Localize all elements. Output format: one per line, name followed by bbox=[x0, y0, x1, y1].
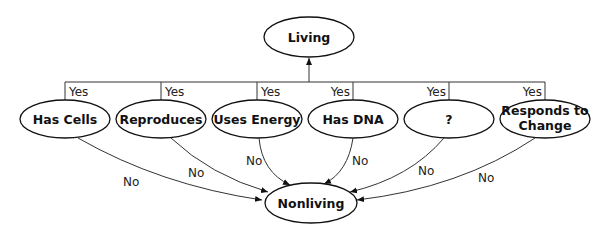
has-dna-label: Has DNA bbox=[322, 112, 384, 127]
no-label-2: No bbox=[188, 166, 204, 180]
criterion-node-has-dna: Has DNA bbox=[308, 100, 398, 138]
criterion-node-has-cells: Has Cells bbox=[20, 100, 110, 138]
yes-label-6: Yes bbox=[522, 85, 542, 99]
criterion-node-uses-energy: Uses Energy bbox=[212, 100, 302, 138]
nonliving-node: Nonliving bbox=[265, 183, 357, 223]
yes-label-5: Yes bbox=[426, 85, 446, 99]
no-label-6: No bbox=[478, 171, 494, 185]
yes-label-1: Yes bbox=[68, 85, 88, 99]
no-label-1: No bbox=[123, 175, 139, 189]
no-arrow-4 bbox=[324, 138, 353, 184]
no-label-5: No bbox=[418, 164, 434, 178]
criterion-node-responds-to-change: Responds to Change bbox=[500, 100, 590, 138]
living-node: Living bbox=[264, 17, 354, 57]
reproduces-label: Reproduces bbox=[120, 112, 203, 127]
no-label-3: No bbox=[246, 154, 262, 168]
responds-to-change-label-line2: Change bbox=[519, 118, 572, 133]
living-label: Living bbox=[288, 30, 331, 45]
no-arrow-1 bbox=[78, 138, 262, 200]
nonliving-label: Nonliving bbox=[278, 196, 345, 211]
no-arrow-3 bbox=[259, 138, 290, 185]
responds-to-change-label-line1: Responds to bbox=[501, 103, 589, 118]
flowchart: Living Yes Yes Yes Yes Yes Yes Has Cells… bbox=[0, 0, 606, 233]
uses-energy-label: Uses Energy bbox=[213, 112, 300, 127]
no-arrow-6 bbox=[357, 138, 535, 200]
unknown-criterion-label: ? bbox=[445, 112, 452, 127]
criterion-node-reproduces: Reproduces bbox=[116, 100, 206, 138]
criterion-node-unknown: ? bbox=[404, 100, 494, 138]
has-cells-label: Has Cells bbox=[33, 112, 97, 127]
yes-label-3: Yes bbox=[260, 85, 280, 99]
yes-label-4: Yes bbox=[330, 85, 350, 99]
yes-label-2: Yes bbox=[164, 85, 184, 99]
no-label-4: No bbox=[352, 154, 368, 168]
